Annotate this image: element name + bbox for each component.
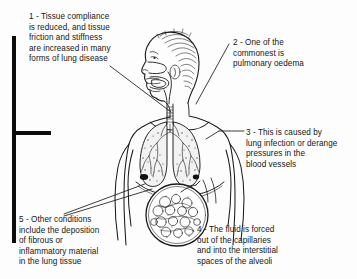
- right-clavicle: [187, 122, 209, 130]
- facial-features: [143, 52, 180, 92]
- right-arm-inner: [226, 150, 231, 226]
- mouth-line: [146, 78, 159, 79]
- annotation-1: 1 - Tissue compliance is reduced, and ti…: [29, 12, 111, 65]
- leader-line-5a: [64, 182, 150, 214]
- figure-root: 1 - Tissue compliance is reduced, and ti…: [0, 0, 357, 279]
- nostril: [143, 70, 148, 71]
- annotation-5: 5 - Other conditions include the deposit…: [19, 215, 99, 268]
- left-base-shadow: [140, 174, 148, 180]
- left-arm-inner: [128, 150, 133, 226]
- annotation-2: 2 - One of the commonest is pulmonary oe…: [233, 38, 304, 70]
- leader-line-2: [196, 44, 229, 104]
- annotation-4: 4 - The fluid is forced out of the capil…: [197, 225, 278, 267]
- right-base-shadow: [193, 175, 199, 180]
- magnifier-connector-stem: [196, 181, 200, 185]
- leader-line-5b: [64, 189, 152, 216]
- hair: [157, 29, 196, 89]
- pupil: [153, 57, 155, 59]
- neck-back: [188, 103, 189, 115]
- chin-line: [150, 90, 160, 92]
- airway: [148, 62, 173, 124]
- lower-lip: [147, 83, 160, 84]
- eyebrow: [150, 52, 158, 54]
- ear: [170, 65, 180, 79]
- annotation-3: 3 - This is caused by lung infection or …: [246, 128, 337, 170]
- face-profile-outline: [142, 33, 164, 101]
- leader-line-3b: [206, 131, 219, 139]
- ear-inner: [174, 68, 176, 77]
- pharynx-back: [168, 72, 171, 104]
- nasal-cavity: [148, 62, 166, 74]
